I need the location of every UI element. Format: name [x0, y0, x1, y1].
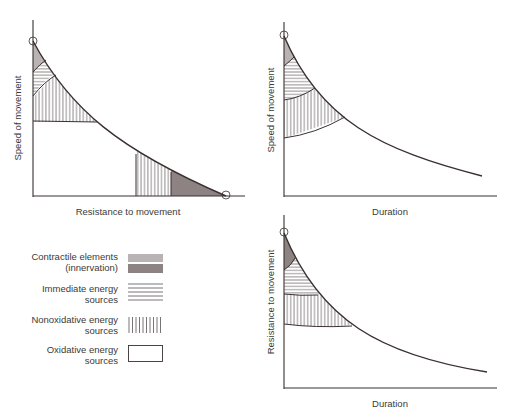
chart-resistance-vs-duration: Duration Resistance to movement	[265, 215, 497, 409]
chart2-x-label: Duration	[372, 206, 408, 217]
chart3-regions	[284, 215, 352, 326]
chart2-regions	[284, 20, 345, 138]
svg-text:(innervation): (innervation)	[65, 262, 118, 273]
svg-text:Contractile elements: Contractile elements	[31, 251, 118, 262]
legend-item-contractile: Contractile elements (innervation)	[31, 251, 163, 273]
legend-item-nonoxidative: Nonoxidative energy sources	[31, 314, 160, 336]
legend: Contractile elements (innervation) Immed…	[31, 251, 163, 366]
legend-item-oxidative: Oxidative energy sources	[47, 344, 163, 366]
chart3-y-label: Resistance to movement	[265, 249, 276, 354]
chart-speed-vs-resistance: Resistance to movement Speed of movement	[12, 20, 245, 217]
vertical-lines-swatch	[129, 317, 161, 333]
chart3-x-label: Duration	[372, 398, 408, 409]
chart1-x-label: Resistance to movement	[76, 206, 181, 217]
svg-text:Immediate energy: Immediate energy	[42, 283, 118, 294]
nonoxidative-region-lower	[136, 100, 171, 196]
svg-text:sources: sources	[85, 325, 119, 336]
chart2-y-label: Speed of movement	[265, 67, 276, 152]
svg-text:Nonoxidative energy: Nonoxidative energy	[31, 314, 118, 325]
contractile-region-bottom	[171, 100, 231, 196]
chart1-regions	[33, 20, 231, 196]
legend-item-immediate: Immediate energy sources	[42, 283, 163, 305]
contractile-light-swatch	[128, 254, 163, 262]
chart-speed-vs-duration: Duration Speed of movement	[265, 20, 497, 217]
empty-swatch	[129, 346, 163, 362]
svg-text:sources: sources	[85, 294, 119, 305]
diagram-canvas: Resistance to movement Speed of movement…	[0, 0, 506, 420]
horizontal-lines-swatch	[128, 284, 163, 300]
svg-text:Oxidative energy: Oxidative energy	[47, 344, 119, 355]
contractile-dark-swatch	[128, 264, 163, 273]
svg-text:sources: sources	[85, 355, 119, 366]
chart1-y-label: Speed of movement	[12, 75, 23, 160]
